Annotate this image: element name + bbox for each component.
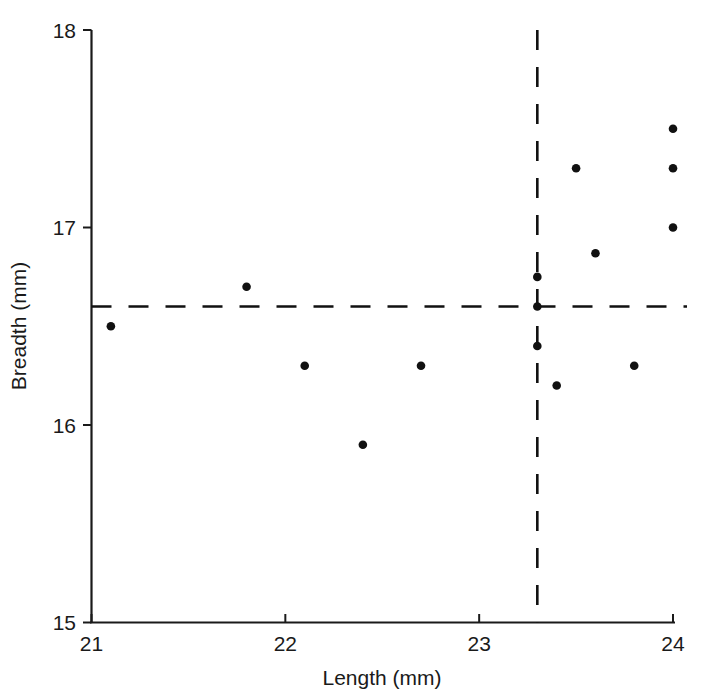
data-point-marker: [533, 273, 542, 282]
data-point-marker: [417, 361, 426, 370]
x-tick-label: 21: [80, 632, 103, 655]
x-axis-ticks: 21222324: [80, 614, 685, 655]
data-point-marker: [669, 164, 678, 173]
plot-canvas: 15161718 21222324 Length (mm) Breadth (m…: [0, 0, 713, 696]
data-point-marker: [552, 381, 561, 390]
data-points: [107, 124, 678, 449]
scatter-plot-figure: 15161718 21222324 Length (mm) Breadth (m…: [0, 0, 713, 696]
data-point-marker: [359, 440, 368, 449]
reference-lines: [92, 30, 688, 623]
data-point-marker: [107, 322, 116, 331]
x-tick-label: 23: [467, 632, 490, 655]
y-tick-label: 18: [53, 19, 76, 42]
x-axis-title: Length (mm): [322, 666, 441, 689]
data-point-marker: [242, 282, 251, 291]
y-tick-label: 17: [53, 216, 76, 239]
y-axis-ticks: 15161718: [53, 19, 92, 635]
data-point-marker: [591, 249, 600, 258]
y-axis-title: Breadth (mm): [7, 262, 30, 390]
data-point-marker: [669, 223, 678, 232]
y-tick-label: 16: [53, 414, 76, 437]
data-point-marker: [533, 302, 542, 311]
x-tick-label: 22: [274, 632, 297, 655]
data-point-marker: [533, 342, 542, 351]
data-point-marker: [669, 124, 678, 133]
data-point-marker: [300, 361, 309, 370]
y-tick-label: 15: [53, 611, 76, 634]
data-point-marker: [630, 361, 639, 370]
x-tick-label: 24: [661, 632, 685, 655]
data-point-marker: [572, 164, 581, 173]
